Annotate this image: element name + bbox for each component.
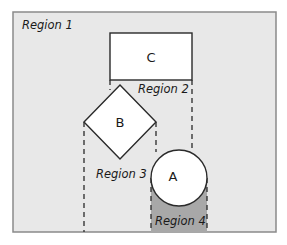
shape-b-label: B [116, 115, 125, 130]
region-1-label: Region 1 [22, 18, 73, 32]
shape-c-label: C [146, 50, 155, 65]
shape-a-circle [151, 150, 207, 206]
region-2-label: Region 2 [138, 82, 189, 96]
shape-a-label: A [169, 169, 178, 184]
region-3-label: Region 3 [96, 167, 147, 181]
region-4-label: Region 4 [155, 214, 206, 228]
regions-diagram: C B A Region 1 Region 2 Region 3 Region … [0, 0, 287, 245]
